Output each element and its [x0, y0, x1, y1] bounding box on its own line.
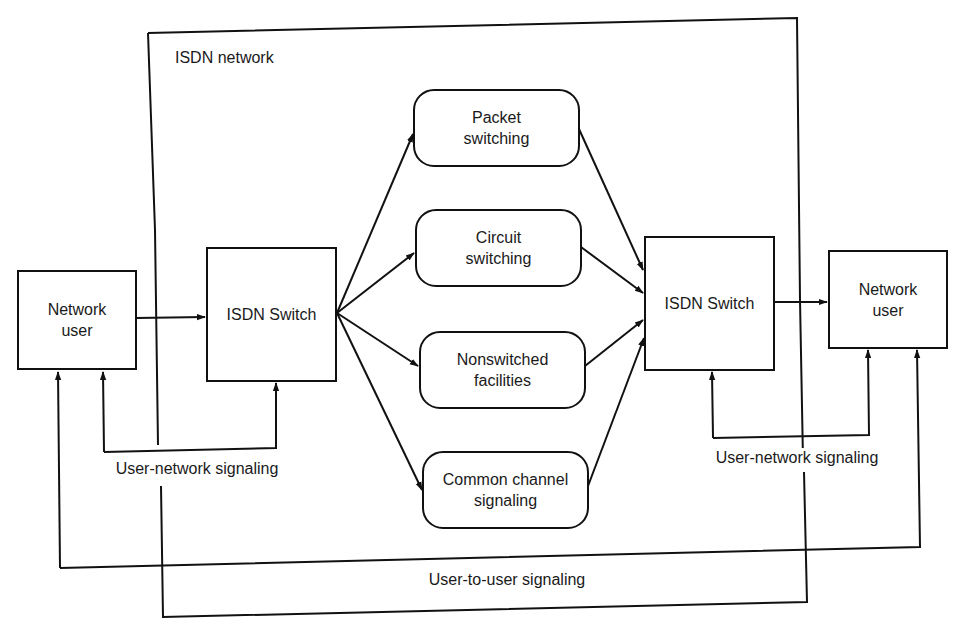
facility-common-channel-label: Common channel signaling	[423, 452, 588, 528]
facility-packet-label: Packet switching	[414, 90, 579, 166]
left-user-label: Network user	[18, 271, 136, 369]
left-user-network-signaling-label: User-network signaling	[92, 459, 302, 479]
facility-circuit-label: Circuit switching	[416, 210, 581, 286]
network-title: ISDN network	[175, 48, 274, 68]
left-switch-label: ISDN Switch	[207, 248, 336, 381]
right-switch-label: ISDN Switch	[645, 237, 774, 370]
facility-nonswitched-label: Nonswitched facilities	[420, 332, 585, 408]
right-user-label: Network user	[829, 251, 947, 348]
user-to-user-signaling-label: User-to-user signaling	[412, 570, 602, 590]
right-user-network-signaling-label: User-network signaling	[692, 448, 902, 468]
